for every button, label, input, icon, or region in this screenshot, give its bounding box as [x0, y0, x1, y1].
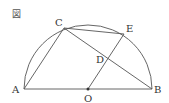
- label-D: D: [96, 54, 104, 65]
- label-E: E: [126, 23, 133, 34]
- label-O: O: [84, 93, 92, 103]
- geometry-figure: 図 A B C D E O: [0, 0, 169, 103]
- label-C: C: [55, 17, 63, 28]
- segment-AC: [24, 28, 64, 89]
- semicircle-arc: [24, 25, 152, 89]
- segment-OE: [88, 34, 124, 89]
- center-point-O: [87, 88, 90, 91]
- figure-label: 図: [12, 9, 21, 19]
- label-A: A: [11, 84, 20, 95]
- label-B: B: [154, 84, 161, 95]
